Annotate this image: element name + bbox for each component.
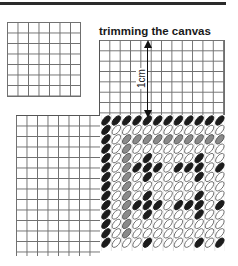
stitch <box>142 124 154 136</box>
stitch <box>111 208 123 220</box>
stitch <box>152 133 164 145</box>
stitch <box>214 133 225 145</box>
stitch <box>131 218 143 230</box>
arrow-down-icon <box>144 110 152 118</box>
stitch <box>101 133 112 145</box>
stitch <box>162 208 174 220</box>
stitch <box>162 218 174 230</box>
stitch <box>204 171 216 183</box>
stitch <box>173 115 185 127</box>
stitch <box>131 124 143 136</box>
stitch <box>214 115 225 127</box>
stitch <box>101 180 112 192</box>
stitch <box>152 152 164 164</box>
stitch <box>111 171 123 183</box>
top-rule <box>0 2 226 5</box>
stitch <box>162 124 174 136</box>
stitch <box>173 227 185 239</box>
stitch <box>121 171 133 183</box>
stitch <box>204 227 216 239</box>
stitched-area <box>101 115 225 251</box>
stitch <box>183 152 195 164</box>
stitch <box>204 208 216 220</box>
stitch <box>142 152 154 164</box>
stitch <box>121 143 133 155</box>
stitch <box>142 161 154 173</box>
stitch <box>142 133 154 145</box>
trimmed-margin-grid-left <box>16 115 100 256</box>
stitch <box>162 143 174 155</box>
stitch <box>131 161 143 173</box>
stitch <box>111 218 123 230</box>
stitch <box>183 237 195 249</box>
stitch <box>152 115 164 127</box>
stitch <box>183 208 195 220</box>
stitch <box>121 218 133 230</box>
stitch <box>204 115 216 127</box>
stitch <box>183 133 195 145</box>
stitch <box>152 180 164 192</box>
stitch <box>204 218 216 230</box>
stitch <box>131 199 143 211</box>
stitch <box>142 171 154 183</box>
stitch <box>111 161 123 173</box>
stitch <box>173 180 185 192</box>
stitch <box>193 199 205 211</box>
stitch <box>121 124 133 136</box>
stitch <box>183 190 195 202</box>
stitch <box>111 133 123 145</box>
stitch <box>214 190 225 202</box>
stitch <box>121 180 133 192</box>
stitch <box>121 237 133 249</box>
stitch <box>131 171 143 183</box>
stitch <box>193 152 205 164</box>
stitch <box>101 208 112 220</box>
stitch <box>111 115 123 127</box>
stitch <box>142 237 154 249</box>
stitch <box>214 171 225 183</box>
stitch <box>162 180 174 192</box>
stitch <box>101 237 112 249</box>
stitch <box>162 199 174 211</box>
stitch <box>162 115 174 127</box>
stitch <box>183 161 195 173</box>
stitch <box>173 208 185 220</box>
stitch <box>111 124 123 136</box>
stitch <box>204 133 216 145</box>
stitch <box>121 133 133 145</box>
stitch <box>162 227 174 239</box>
stitch <box>101 199 112 211</box>
stitch <box>204 199 216 211</box>
stitch <box>173 133 185 145</box>
stitch <box>214 161 225 173</box>
stitch <box>152 143 164 155</box>
stitch <box>204 237 216 249</box>
stitch <box>111 152 123 164</box>
stitch <box>193 180 205 192</box>
stitch <box>131 190 143 202</box>
stitch <box>193 190 205 202</box>
stitch <box>162 171 174 183</box>
stitch <box>214 152 225 164</box>
stitch <box>152 237 164 249</box>
stitch <box>101 161 112 173</box>
plain-canvas-grid <box>7 22 81 97</box>
stitch <box>101 124 112 136</box>
stitch <box>121 208 133 220</box>
stitch <box>101 171 112 183</box>
stitch <box>173 161 185 173</box>
stitch <box>111 227 123 239</box>
stitch <box>101 152 112 164</box>
stitch <box>131 227 143 239</box>
stitch <box>142 143 154 155</box>
measure-label: 1cm <box>136 68 147 89</box>
measure-arrow-shaft <box>147 46 148 112</box>
stitch <box>131 180 143 192</box>
stitch <box>183 227 195 239</box>
stitch <box>193 161 205 173</box>
stitch <box>142 199 154 211</box>
stitch <box>152 171 164 183</box>
stitch <box>142 227 154 239</box>
stitch <box>142 218 154 230</box>
stitch <box>183 143 195 155</box>
